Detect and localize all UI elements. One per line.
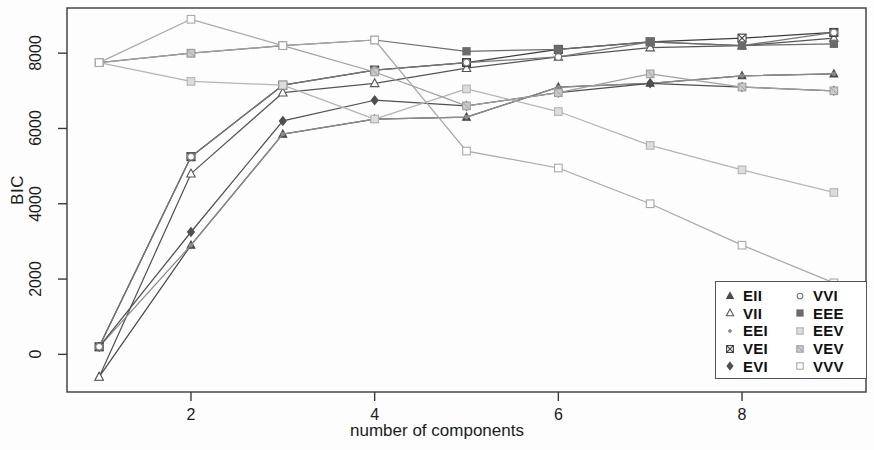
legend-marker-filled-triangle-up-icon — [722, 289, 737, 303]
series-vvv — [95, 15, 837, 286]
legend-marker-filled-square-icon — [792, 306, 807, 320]
legend-entry-vev: VEV — [792, 340, 862, 358]
legend-label: EEI — [743, 323, 768, 338]
legend-label: EEV — [813, 323, 844, 338]
legend-entry-vii: VII — [722, 305, 792, 323]
legend-label: EVI — [743, 359, 768, 374]
bic-model-selection-chart: BIC number of components 020004000600080… — [0, 0, 874, 450]
legend-marker-shaded-square-icon — [792, 342, 807, 356]
legend-box: EIIVVIVIIEEEEEIEEVVEIVEVEVIVVV — [715, 281, 867, 379]
legend-label: EII — [743, 288, 762, 303]
legend-entry-vvi: VVI — [792, 287, 862, 305]
legend-grid: EIIVVIVIIEEEEEIEEVVEIVEVEVIVVV — [716, 282, 866, 378]
legend-label: VEV — [813, 341, 844, 356]
legend-marker-light-square-icon — [792, 324, 807, 338]
legend-entry-eev: EEV — [792, 322, 862, 340]
legend-marker-open-triangle-up-icon — [722, 306, 737, 320]
legend-marker-small-dot-icon — [722, 324, 737, 338]
legend-label: EEE — [813, 306, 844, 321]
legend-entry-vvv: VVV — [792, 357, 862, 375]
legend-marker-crossed-square-icon — [722, 342, 737, 356]
legend-marker-open-square-icon — [792, 359, 807, 373]
legend-label: VVI — [813, 288, 838, 303]
legend-entry-eii: EII — [722, 287, 792, 305]
axis-ticks — [58, 53, 742, 401]
legend-marker-filled-diamond-icon — [722, 359, 737, 373]
series-eev — [95, 59, 837, 196]
legend-marker-open-circle-icon — [792, 289, 807, 303]
legend-label: VVV — [813, 359, 844, 374]
legend-entry-eee: EEE — [792, 305, 862, 323]
plot-area — [0, 0, 874, 450]
legend-entry-evi: EVI — [722, 357, 792, 375]
legend-entry-eei: EEI — [722, 322, 792, 340]
legend-label: VII — [743, 306, 762, 321]
legend-entry-vei: VEI — [722, 340, 792, 358]
legend-label: VEI — [743, 341, 768, 356]
